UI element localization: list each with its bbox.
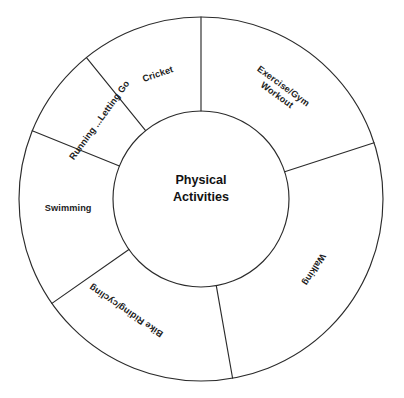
center-label: Physical Activities (113, 172, 289, 206)
sector-divider-walking (285, 143, 374, 172)
center-label-line2: Activities (113, 189, 289, 206)
physical-activities-wheel-diagram: Physical Activities Exercise/GymWorkoutW… (0, 0, 404, 398)
sector-divider-bike-riding-cycling (216, 286, 232, 379)
center-label-line1: Physical (113, 172, 289, 189)
sector-divider-running-letting-go (32, 131, 119, 166)
sector-divider-cricket (86, 58, 145, 131)
sector-divider-swimming (52, 249, 129, 303)
